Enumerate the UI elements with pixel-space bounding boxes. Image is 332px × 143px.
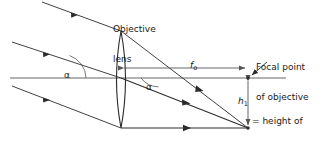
focal-length-label: fo [190,60,197,73]
incoming-ray-lower-arrowhead [43,97,50,102]
incoming-ray-upper [42,2,121,31]
refracted-ray-upper-arrowhead [195,85,203,92]
objective-lens-label-line2: lens [113,54,156,64]
image-height-description: = height of intermediate image [252,96,319,143]
angle-label-upper: α [64,70,70,80]
incoming-ray-upper-arrowhead [71,13,78,18]
objective-lens-label-line1: Objective [113,24,156,34]
image-point-marker [246,126,249,129]
image-height-description-line1: = height of [252,116,319,126]
objective-lens-label: Objective lens [113,4,156,84]
focal-length-subscript: o [193,64,197,72]
angle-label-lower: α [146,82,152,92]
focal-point-label-line1: Focal point [256,62,309,72]
incoming-ray-middle-arrowhead [43,52,50,57]
refracted-ray-lower-arrowhead [183,125,191,131]
optics-ray-diagram: Objective lens Focal point of objective … [0,0,332,143]
incoming-ray-lower [12,86,121,128]
image-height-symbol-label: h1 [238,96,248,109]
image-height-subscript: 1 [244,100,248,108]
angle-arc-upper [70,56,87,78]
focal-point-marker [246,76,249,79]
